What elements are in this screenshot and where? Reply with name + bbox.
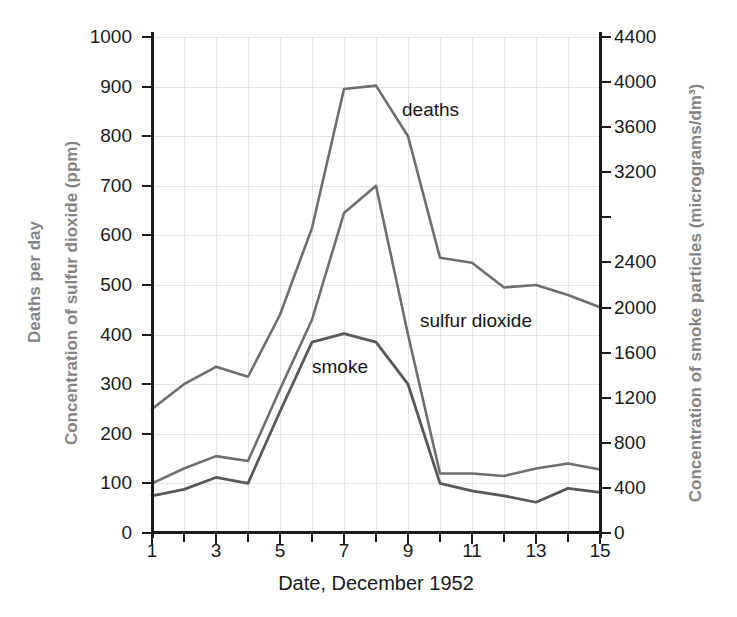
y-tick-label-left: 400 — [100, 325, 132, 344]
x-tick — [567, 533, 569, 542]
y-tick-label-left: 100 — [100, 473, 132, 492]
y-tick-left — [142, 284, 152, 286]
y-tick-left — [142, 86, 152, 88]
y-tick-left — [142, 234, 152, 236]
x-tick — [503, 533, 505, 542]
y-tick-left — [142, 135, 152, 137]
y-tick-right — [601, 261, 611, 263]
x-tick — [311, 533, 313, 542]
y-tick-label-left: 0 — [121, 523, 132, 542]
x-tick-label: 3 — [191, 541, 241, 560]
y-tick-label-right: 3600 — [614, 117, 656, 136]
x-tick-label: 15 — [575, 541, 625, 560]
y-tick-label-right: 3200 — [614, 162, 656, 181]
series-layer — [152, 37, 600, 533]
y-axis-left-title-sulfur-dioxide: Concentration of sulfur dioxide (ppm) — [62, 78, 82, 508]
y-tick-right — [601, 397, 611, 399]
y-tick-label-right: 1600 — [614, 343, 656, 362]
y-tick-label-left: 600 — [100, 225, 132, 244]
y-tick-label-right: 2400 — [614, 252, 656, 271]
series-label-smoke: smoke — [312, 356, 368, 378]
x-tick — [183, 533, 185, 542]
series-line-sulfur-dioxide — [152, 186, 600, 484]
x-tick-label: 7 — [319, 541, 369, 560]
x-tick-label: 1 — [127, 541, 177, 560]
y-tick-right — [601, 126, 611, 128]
x-tick-label: 11 — [447, 541, 497, 560]
y-tick-right — [601, 81, 611, 83]
y-tick-left — [142, 383, 152, 385]
y-tick-left — [142, 433, 152, 435]
y-tick-right — [601, 36, 611, 38]
y-tick-right — [601, 352, 611, 354]
y-tick-left — [142, 185, 152, 187]
y-tick-label-left: 700 — [100, 176, 132, 195]
series-line-deaths — [152, 86, 600, 409]
y-tick-label-left: 500 — [100, 275, 132, 294]
air-pollution-line-chart: 01002003004005006007008009001000 0400800… — [0, 0, 737, 617]
y-tick-label-right: 800 — [614, 433, 646, 452]
y-axis-left-title-deaths: Deaths per day — [25, 167, 45, 397]
y-tick-right — [601, 442, 611, 444]
series-label-sulfur-dioxide: sulfur dioxide — [420, 310, 532, 332]
x-tick-label: 13 — [511, 541, 561, 560]
y-axis-right-line — [599, 32, 602, 538]
y-axis-right-title: Concentration of smoke particles (microg… — [686, 78, 706, 508]
y-tick-label-right: 4400 — [614, 27, 656, 46]
series-label-deaths: deaths — [402, 99, 459, 121]
x-tick-label: 9 — [383, 541, 433, 560]
y-tick-left — [142, 334, 152, 336]
y-tick-right — [601, 307, 611, 309]
y-tick-right — [601, 216, 611, 218]
y-tick-left — [142, 482, 152, 484]
y-tick-label-right: 2000 — [614, 298, 656, 317]
y-tick-right — [601, 487, 611, 489]
x-axis-title: Date, December 1952 — [152, 572, 600, 595]
x-tick — [439, 533, 441, 542]
series-line-smoke — [152, 334, 600, 503]
y-tick-label-left: 200 — [100, 424, 132, 443]
y-tick-label-right: 400 — [614, 478, 646, 497]
x-tick — [247, 533, 249, 542]
y-tick-left — [142, 36, 152, 38]
x-tick-label: 5 — [255, 541, 305, 560]
y-tick-label-left: 800 — [100, 126, 132, 145]
y-tick-label-left: 300 — [100, 374, 132, 393]
y-tick-label-right: 0 — [614, 523, 625, 542]
plot-area — [152, 37, 600, 533]
y-tick-label-right: 4000 — [614, 72, 656, 91]
y-tick-right — [601, 532, 611, 534]
x-tick — [375, 533, 377, 542]
y-tick-label-right: 1200 — [614, 388, 656, 407]
y-tick-right — [601, 171, 611, 173]
y-tick-label-left: 1000 — [90, 27, 132, 46]
y-tick-label-left: 900 — [100, 77, 132, 96]
